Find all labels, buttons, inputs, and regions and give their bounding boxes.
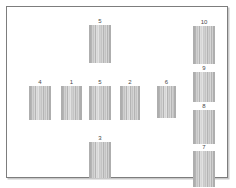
- figure-panel: 541526310987: [6, 6, 228, 178]
- gel-lane[interactable]: 4: [29, 86, 51, 120]
- lane-band: [193, 72, 215, 102]
- lane-band: [193, 110, 215, 144]
- lane-label: 2: [120, 79, 140, 86]
- lane-label: 4: [29, 79, 51, 86]
- lane-band: [89, 86, 111, 120]
- lane-band: [61, 86, 82, 120]
- gel-lane[interactable]: 3: [89, 142, 111, 178]
- lane-band: [120, 86, 140, 120]
- lane-band: [29, 86, 51, 120]
- gel-lane[interactable]: 9: [193, 72, 215, 102]
- lane-band: [89, 25, 111, 63]
- lane-label: 7: [193, 144, 215, 151]
- gel-lane[interactable]: 7: [193, 151, 215, 187]
- lane-label: 10: [193, 19, 215, 26]
- gel-lane[interactable]: 8: [193, 110, 215, 144]
- lane-band: [193, 151, 215, 187]
- gel-lane[interactable]: 6: [157, 86, 176, 118]
- lane-label: 5: [89, 18, 111, 25]
- lane-label: 8: [193, 103, 215, 110]
- gel-lane[interactable]: 5: [89, 86, 111, 120]
- lane-label: 1: [61, 79, 82, 86]
- gel-lane[interactable]: 2: [120, 86, 140, 120]
- lane-label: 3: [89, 135, 111, 142]
- lane-band: [193, 26, 215, 64]
- lane-band: [89, 142, 111, 178]
- lane-label: 5: [89, 79, 111, 86]
- gel-lane[interactable]: 5: [89, 25, 111, 63]
- gel-lane[interactable]: 1: [61, 86, 82, 120]
- lane-band: [157, 86, 176, 118]
- lane-label: 9: [193, 65, 215, 72]
- lane-label: 6: [157, 79, 176, 86]
- gel-lane[interactable]: 10: [193, 26, 215, 64]
